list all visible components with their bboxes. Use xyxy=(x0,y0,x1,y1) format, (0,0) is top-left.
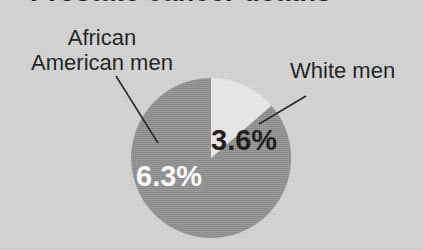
label-white-men: White men xyxy=(290,58,395,83)
label-african-american-men-line1: African xyxy=(68,25,136,50)
chart-title-cropped: Prostate cancer deaths xyxy=(0,0,423,6)
leader-line-african-american-men xyxy=(110,70,170,155)
value-white-men: 3.6% xyxy=(211,124,277,157)
label-african-american-men: African American men xyxy=(8,25,196,75)
chart-title-text: Prostate cancer deaths xyxy=(30,0,332,6)
pie-chart-figure: Prostate cancer deaths African American … xyxy=(0,0,423,250)
value-african-american-men: 6.3% xyxy=(136,160,202,193)
label-african-american-men-line2: American men xyxy=(8,50,196,75)
